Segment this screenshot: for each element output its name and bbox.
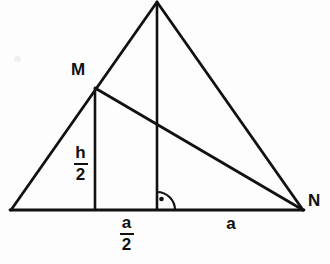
half-height-numerator: h — [72, 144, 89, 162]
half-height-denominator: 2 — [72, 166, 89, 184]
half-base-denominator: 2 — [118, 236, 135, 254]
vertex-label-n: N — [308, 192, 320, 209]
geometry-diagram: M N h 2 a 2 a — [0, 0, 330, 264]
label-base-segment: a — [221, 215, 241, 232]
right-side-line — [157, 2, 303, 210]
half-base-numerator: a — [118, 214, 135, 232]
geometry-canvas — [0, 0, 330, 264]
label-half-base: a 2 — [118, 214, 135, 254]
label-half-height: h 2 — [72, 144, 89, 184]
median-mn-line — [95, 88, 303, 210]
right-angle-arc-icon — [157, 192, 175, 210]
scan-artifact — [14, 56, 21, 62]
right-angle-dot-icon — [159, 197, 164, 202]
vertex-label-m: M — [71, 61, 85, 78]
